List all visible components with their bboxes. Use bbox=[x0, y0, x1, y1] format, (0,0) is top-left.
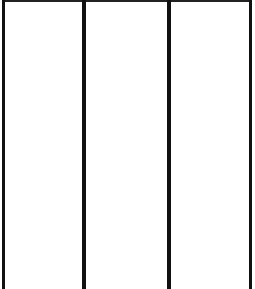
panel-2 bbox=[86, 2, 167, 289]
panel-3 bbox=[171, 2, 249, 289]
panel-1 bbox=[5, 2, 82, 289]
right-edge-line bbox=[249, 0, 252, 289]
divider-line-1 bbox=[82, 0, 86, 289]
divider-line-2 bbox=[167, 0, 171, 289]
diagram-canvas bbox=[0, 0, 255, 289]
left-edge-line bbox=[2, 0, 5, 289]
